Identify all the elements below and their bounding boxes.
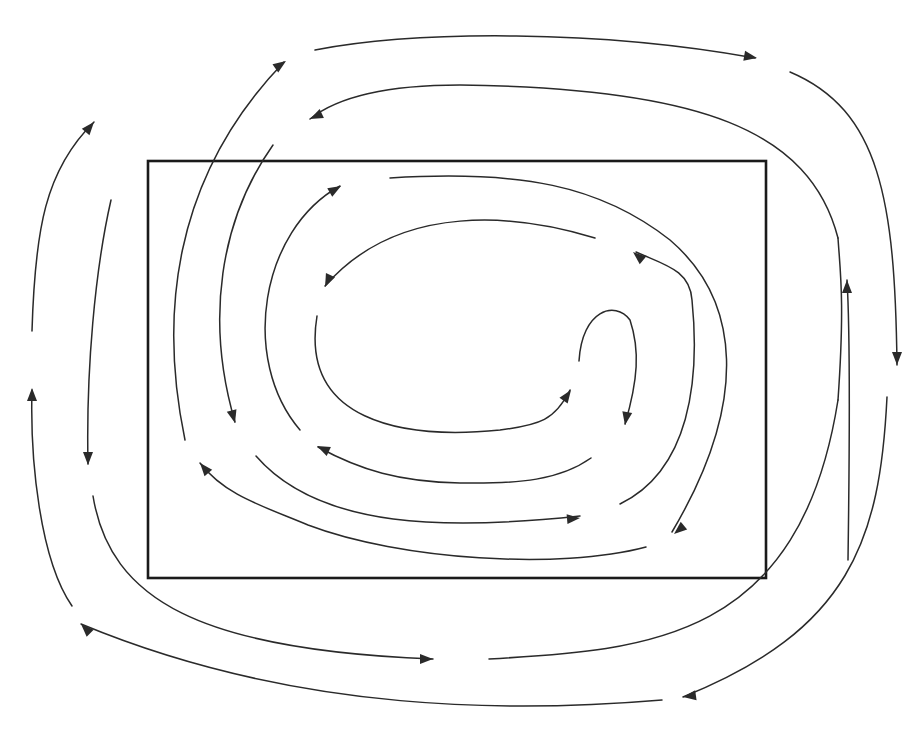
arrowhead-icon — [320, 273, 335, 289]
streamline-diagram — [0, 0, 922, 734]
arrowhead-icon — [743, 51, 758, 63]
streamline-second-left-down — [88, 200, 111, 464]
streamline-fifth-bottom — [200, 463, 646, 559]
streamline-inner-hook — [579, 310, 636, 424]
streamline-outer-right — [790, 72, 897, 365]
streamline-outer-left-up — [32, 390, 72, 606]
streamline-fourth-right — [620, 252, 694, 504]
streamline-third-left-up — [174, 62, 284, 440]
streamline-outer-top — [315, 36, 755, 58]
streamline-inner-bottom — [315, 316, 570, 432]
arrowhead-icon — [272, 57, 288, 73]
arrowhead-icon — [892, 352, 902, 365]
arrowheads-group — [27, 51, 902, 702]
streamline-inner-top — [325, 220, 595, 286]
arrowhead-icon — [620, 411, 632, 426]
arrowhead-icon — [327, 182, 343, 197]
arrowhead-icon — [27, 388, 37, 401]
flow-diagram-canvas — [0, 0, 922, 734]
streamline-fifth-top — [390, 176, 727, 532]
streamline-fourth-left-down — [220, 145, 273, 422]
streamline-fourth-bottom — [256, 456, 580, 523]
streamline-inner-return — [318, 447, 591, 483]
streamline-second-right-up — [838, 238, 842, 400]
arrowhead-icon — [567, 513, 581, 524]
streamline-outer-left-top — [32, 122, 94, 331]
streamline-second-bottom-right — [489, 400, 838, 659]
arrowhead-icon — [315, 441, 331, 456]
streamline-outer-right-inner-up — [847, 280, 849, 560]
streamline-outer-bottom — [81, 624, 662, 706]
arrowhead-icon — [83, 452, 93, 465]
streamline-fifth-left-up — [265, 186, 340, 430]
arrowhead-icon — [420, 654, 433, 664]
arrowhead-icon — [630, 248, 646, 264]
rectangular-boundary — [148, 161, 766, 578]
arrowhead-icon — [77, 620, 93, 636]
arrowhead-icon — [227, 409, 240, 424]
arrowhead-icon — [842, 280, 852, 293]
arrowhead-icon — [559, 387, 575, 403]
